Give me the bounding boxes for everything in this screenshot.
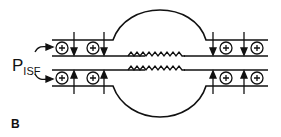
panel-label: B (11, 117, 20, 131)
diagram-canvas (0, 0, 281, 137)
plus-charges (56, 42, 263, 84)
pressure-label: PISF (12, 56, 40, 77)
